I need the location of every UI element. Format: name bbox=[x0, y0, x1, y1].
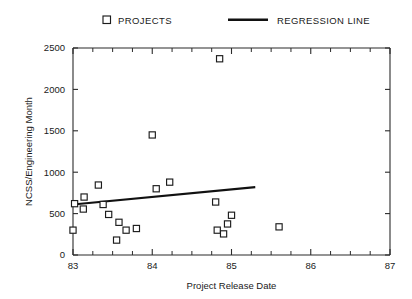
x-tick-label: 85 bbox=[226, 260, 237, 271]
x-tick-label: 87 bbox=[385, 260, 396, 271]
scatter-plot-svg: PROJECTS REGRESSION LINE 050010001500200… bbox=[0, 0, 412, 299]
y-tick-label: 1500 bbox=[44, 125, 65, 136]
x-tick-label: 84 bbox=[147, 260, 158, 271]
data-point-marker bbox=[106, 211, 112, 217]
data-point-marker bbox=[228, 212, 234, 218]
data-point-marker bbox=[70, 227, 76, 233]
data-point-marker bbox=[220, 231, 226, 237]
data-point-marker bbox=[71, 201, 77, 207]
data-point-marker bbox=[213, 199, 219, 205]
data-point-markers bbox=[70, 56, 282, 244]
data-point-marker bbox=[224, 221, 230, 227]
y-tick-label: 2000 bbox=[44, 84, 65, 95]
y-tick-label: 500 bbox=[49, 208, 65, 219]
data-point-marker bbox=[149, 132, 155, 138]
data-point-marker bbox=[153, 186, 159, 192]
data-point-marker bbox=[81, 194, 87, 200]
data-point-marker bbox=[80, 206, 86, 212]
legend-label-regression: REGRESSION LINE bbox=[277, 15, 370, 26]
y-tick-label: 1000 bbox=[44, 167, 65, 178]
data-point-marker bbox=[100, 201, 106, 207]
y-axis-title: NCSS/Engineering Month bbox=[23, 97, 34, 206]
y-tick-label: 0 bbox=[60, 249, 65, 260]
data-point-marker bbox=[95, 182, 101, 188]
x-tick-label: 86 bbox=[305, 260, 316, 271]
chart-legend: PROJECTS REGRESSION LINE bbox=[103, 15, 370, 26]
data-point-marker bbox=[133, 225, 139, 231]
y-tick-label: 2500 bbox=[44, 42, 65, 53]
data-point-marker bbox=[113, 237, 119, 243]
data-point-marker bbox=[214, 227, 220, 233]
data-point-marker bbox=[116, 219, 122, 225]
legend-label-projects: PROJECTS bbox=[118, 15, 172, 26]
data-point-marker bbox=[217, 56, 223, 62]
chart-figure: PROJECTS REGRESSION LINE 050010001500200… bbox=[0, 0, 412, 299]
x-tick-label: 83 bbox=[68, 260, 79, 271]
data-point-marker bbox=[167, 179, 173, 185]
data-point-marker bbox=[276, 224, 282, 230]
legend-marker-projects bbox=[103, 16, 111, 24]
x-axis-title: Project Release Date bbox=[187, 280, 277, 291]
data-point-marker bbox=[123, 227, 129, 233]
